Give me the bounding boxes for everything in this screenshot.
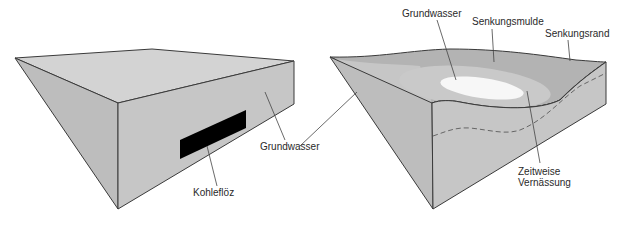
groundwater-leader-right-left	[300, 92, 357, 146]
intact-block	[15, 49, 294, 209]
groundwater-label-left: Grundwasser	[260, 141, 319, 152]
groundwater-label-right: Grundwasser	[402, 8, 461, 19]
waterlogging-label-line1: Zeitweise	[518, 166, 560, 177]
coal-seam-label: Kohleflöz	[193, 187, 234, 198]
waterlogging-label-line2: Vernässung	[518, 177, 571, 188]
subsidence-edge-label: Senkungsrand	[545, 28, 610, 39]
diagram-canvas	[0, 0, 629, 226]
subsidence-edge-leader	[568, 40, 570, 61]
subsidence-basin-label: Senkungsmulde	[472, 16, 544, 27]
